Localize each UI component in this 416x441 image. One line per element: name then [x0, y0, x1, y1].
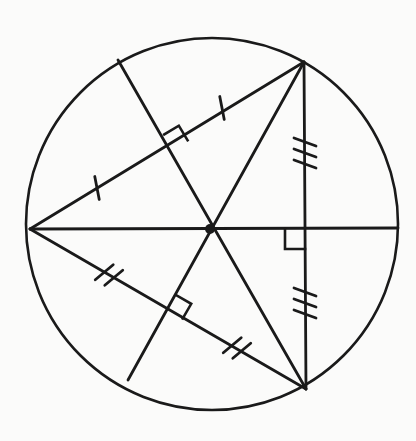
points-layer: [205, 224, 215, 234]
right-angle-midpoint-BC-square: [285, 229, 305, 249]
right-angle-midpoint-BC: [285, 229, 305, 249]
bisector-chord-lower: [128, 62, 304, 380]
right-angle-layer: [164, 126, 305, 319]
triangle-side-BC: [304, 62, 306, 389]
tick-side-BC-lower: [294, 288, 316, 318]
tick-side-BC-upper: [294, 138, 316, 168]
geometry-canvas: [0, 0, 416, 441]
geometry-figure-root: [0, 0, 416, 441]
tick-side-AB-left: [88, 177, 106, 200]
segments-layer: [30, 60, 398, 389]
circumcenter-dot: [205, 224, 215, 234]
tick-side-AB-left-stroke-1: [88, 177, 106, 200]
